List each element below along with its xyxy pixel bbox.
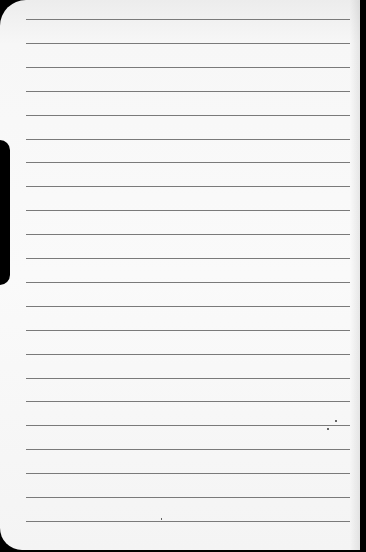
ruled-line xyxy=(26,521,350,522)
ruled-line xyxy=(26,282,350,283)
ruled-line xyxy=(26,162,350,163)
ruled-line xyxy=(26,449,350,450)
page-edge-shadow xyxy=(350,0,360,552)
ruled-line xyxy=(26,19,350,20)
ink-speck xyxy=(161,518,162,520)
ruled-line xyxy=(26,306,350,307)
ink-speck xyxy=(335,420,337,422)
ruled-line xyxy=(26,378,350,379)
binding-notch xyxy=(0,140,10,285)
ruled-line xyxy=(26,115,350,116)
ruled-line xyxy=(26,234,350,235)
ruled-line xyxy=(26,354,350,355)
ruled-line xyxy=(26,139,350,140)
ruled-line xyxy=(26,330,350,331)
ruled-line xyxy=(26,186,350,187)
ruled-line xyxy=(26,91,350,92)
ink-speck xyxy=(327,428,329,430)
ruled-paper-page xyxy=(0,0,360,550)
ruled-line xyxy=(26,43,350,44)
ruled-line xyxy=(26,497,350,498)
ruled-line xyxy=(26,67,350,68)
ruled-line xyxy=(26,473,350,474)
ruled-line xyxy=(26,210,350,211)
ruled-line xyxy=(26,401,350,402)
ruled-line xyxy=(26,425,350,426)
ruled-line xyxy=(26,258,350,259)
